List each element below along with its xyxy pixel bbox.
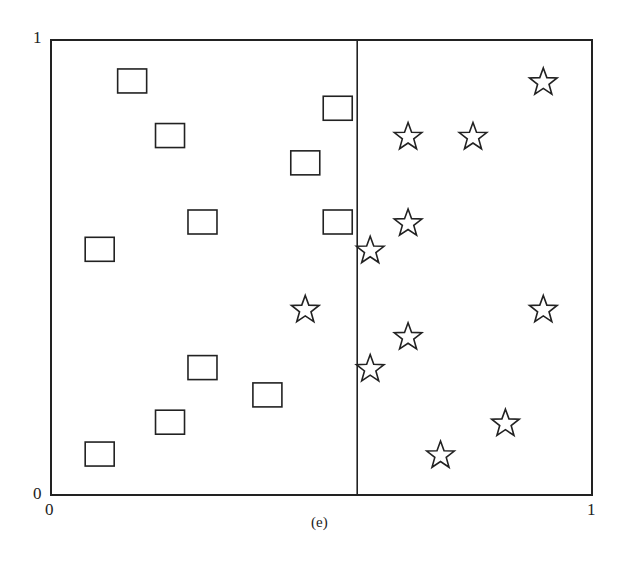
star-marker bbox=[394, 323, 422, 349]
square-marker bbox=[85, 237, 114, 261]
star-marker bbox=[394, 123, 422, 149]
star-marker bbox=[356, 355, 384, 381]
square-marker bbox=[85, 442, 114, 466]
x-tick-1: 1 bbox=[587, 500, 596, 520]
star-marker bbox=[356, 236, 384, 262]
square-marker bbox=[118, 69, 147, 93]
square-marker bbox=[156, 410, 185, 434]
square-marker bbox=[291, 151, 320, 175]
star-marker bbox=[427, 441, 455, 467]
star-marker bbox=[530, 68, 558, 94]
y-tick-0: 0 bbox=[33, 484, 42, 504]
square-marker bbox=[188, 210, 217, 234]
square-marker bbox=[323, 96, 352, 120]
star-marker bbox=[394, 209, 422, 235]
star-marker bbox=[492, 409, 520, 435]
markers-layer bbox=[85, 68, 557, 467]
figure-caption: (e) bbox=[311, 514, 328, 531]
y-tick-1: 1 bbox=[33, 28, 42, 48]
star-marker bbox=[530, 295, 558, 321]
square-marker bbox=[188, 356, 217, 380]
square-marker bbox=[323, 210, 352, 234]
star-marker bbox=[459, 123, 487, 149]
square-marker bbox=[156, 124, 185, 148]
x-tick-0: 0 bbox=[45, 500, 54, 520]
star-marker bbox=[291, 295, 319, 321]
scatter-plot bbox=[0, 0, 622, 572]
square-marker bbox=[253, 383, 282, 407]
